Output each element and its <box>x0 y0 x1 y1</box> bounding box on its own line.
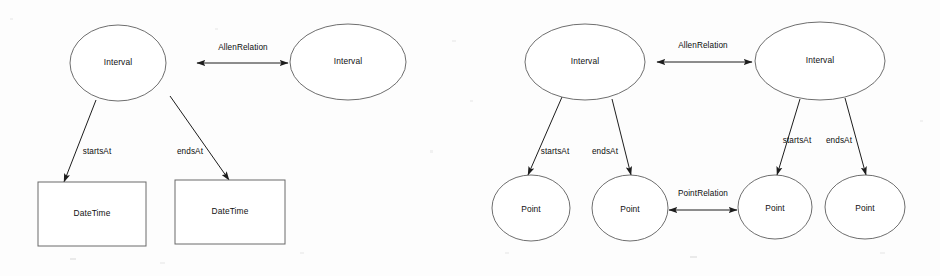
point-2-label: Point <box>620 204 640 214</box>
allen-relation-left-label: AllenRelation <box>218 43 268 52</box>
interval-left-2-label: Interval <box>334 56 362 66</box>
interval-right-1-label: Interval <box>571 56 599 66</box>
allen-relation-right-label: AllenRelation <box>678 41 728 50</box>
interval-left-1-label: Interval <box>104 57 132 67</box>
datetime-2-label: DateTime <box>212 206 249 216</box>
node-interval-right-2[interactable]: Interval <box>755 22 885 100</box>
edge-starts-at-right-2: startsAt <box>777 99 812 175</box>
node-interval-left-1[interactable]: Interval <box>70 25 166 101</box>
node-interval-right-1[interactable]: Interval <box>525 24 645 100</box>
edge-allen-relation-right: AllenRelation <box>657 41 752 62</box>
ends-at-right-1-label: endsAt <box>592 147 619 156</box>
starts-at-right-2-label: startsAt <box>783 136 812 145</box>
edge-starts-at-left: startsAt <box>64 100 112 182</box>
node-point-2[interactable]: Point <box>592 175 668 241</box>
node-point-1[interactable]: Point <box>492 175 570 241</box>
edge-allen-relation-left: AllenRelation <box>197 43 288 63</box>
datetime-1-label: DateTime <box>74 208 111 218</box>
node-datetime-2[interactable]: DateTime <box>175 180 285 244</box>
ends-at-right-1-line <box>612 99 631 175</box>
edge-ends-at-right-2: endsAt <box>826 98 866 175</box>
starts-at-right-1-label: startsAt <box>541 147 570 156</box>
starts-at-right-1-line <box>528 97 562 175</box>
edge-point-relation: PointRelation <box>669 189 737 210</box>
edge-starts-at-right-1: startsAt <box>528 97 570 175</box>
ends-at-left-line <box>170 96 229 180</box>
point-4-label: Point <box>855 203 875 213</box>
interval-right-2-label: Interval <box>806 55 834 65</box>
node-interval-left-2[interactable]: Interval <box>290 24 406 100</box>
edge-ends-at-left: endsAt <box>170 96 229 180</box>
diagram-figure: AllenRelation startsAt endsAt Interval I… <box>0 0 940 276</box>
node-datetime-1[interactable]: DateTime <box>38 182 146 246</box>
ends-at-right-2-label: endsAt <box>826 136 853 145</box>
starts-at-left-line <box>64 100 96 182</box>
point-3-label: Point <box>765 203 785 213</box>
diagram-canvas: AllenRelation startsAt endsAt Interval I… <box>0 0 940 276</box>
edge-ends-at-right-1: endsAt <box>592 99 631 175</box>
node-point-3[interactable]: Point <box>738 175 812 239</box>
starts-at-left-label: startsAt <box>83 147 112 156</box>
left-panel: AllenRelation startsAt endsAt Interval I… <box>38 24 406 246</box>
ends-at-left-label: endsAt <box>177 147 204 156</box>
point-relation-label: PointRelation <box>678 189 728 198</box>
node-point-4[interactable]: Point <box>825 175 905 239</box>
point-1-label: Point <box>521 204 541 214</box>
right-panel: AllenRelation PointRelation startsAt end… <box>492 22 905 241</box>
